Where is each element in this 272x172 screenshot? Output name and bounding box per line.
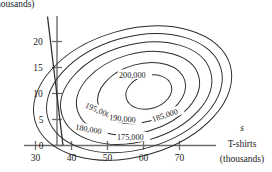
contour-label-200000: 200,000 bbox=[118, 70, 152, 80]
contour-label-190000: 190,000 bbox=[108, 112, 143, 125]
constraint-line bbox=[48, 17, 64, 146]
x-axis-title-group: s T-shirts (thousands) bbox=[220, 123, 264, 165]
contour-label-180000-text: 180,000 bbox=[75, 123, 103, 136]
x-axis-name-label: T-shirts bbox=[228, 139, 257, 149]
contour-label-185000-text: 185,000 bbox=[151, 107, 179, 124]
y-ticklabel-10: 10 bbox=[33, 89, 43, 99]
y-ticklabel-5: 5 bbox=[39, 115, 44, 125]
plot-canvas: 200,000 195,000 190,000 185,000 180,000 bbox=[0, 0, 272, 172]
x-axis-variable-label: s bbox=[240, 123, 244, 133]
y-ticklabel-15: 15 bbox=[33, 63, 43, 73]
y-ticklabels-group: 0 5 10 15 20 bbox=[33, 37, 43, 151]
x-ticklabel-50: 50 bbox=[103, 153, 113, 163]
x-ticklabel-60: 60 bbox=[139, 153, 149, 163]
x-ticklabel-40: 40 bbox=[67, 153, 77, 163]
contours-group bbox=[18, 4, 248, 172]
y-ticklabel-20: 20 bbox=[33, 37, 43, 47]
axes-group bbox=[24, 16, 216, 146]
y-axis-caption: housands) bbox=[0, 0, 35, 9]
x-axis-units-label: (thousands) bbox=[220, 154, 264, 165]
contour-label-175000-text: 175,000 bbox=[117, 133, 144, 142]
contour-label-190000-text: 190,000 bbox=[109, 113, 136, 125]
contour-label-200000-text: 200,000 bbox=[119, 71, 146, 80]
x-ticklabel-30: 30 bbox=[31, 153, 41, 163]
x-ticklabels-group: 30 40 50 60 70 bbox=[31, 153, 185, 163]
contour-label-175000: 175,000 bbox=[116, 132, 150, 142]
contour-plot-figure: housands) bbox=[0, 0, 272, 172]
contour-175000 bbox=[18, 4, 248, 172]
y-ticklabel-0: 0 bbox=[39, 141, 44, 151]
x-ticklabel-70: 70 bbox=[175, 153, 185, 163]
